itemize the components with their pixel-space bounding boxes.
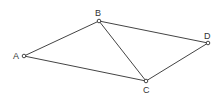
- edge-bd: [99, 21, 208, 43]
- vertex-label-c: C: [143, 85, 150, 95]
- edge-bc: [99, 21, 146, 81]
- vertex-b-point-icon: [97, 19, 101, 23]
- vertex-label-b: B: [95, 8, 101, 18]
- edge-dc: [146, 43, 208, 81]
- edge-ab: [24, 21, 99, 56]
- vertex-a-point-icon: [22, 54, 26, 58]
- vertex-label-a: A: [13, 51, 19, 61]
- vertex-c-point-icon: [144, 79, 148, 83]
- vertex-labels: ABCD: [13, 8, 211, 95]
- vertices: [22, 19, 210, 83]
- edge-ca: [24, 56, 146, 81]
- edges: [24, 21, 208, 81]
- vertex-label-d: D: [204, 31, 211, 41]
- geometry-diagram: ABCD: [0, 0, 224, 100]
- vertex-d-point-icon: [206, 41, 210, 45]
